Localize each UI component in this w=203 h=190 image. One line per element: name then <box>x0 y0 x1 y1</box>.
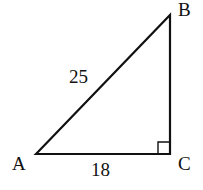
vertex-label-a: A <box>12 153 26 174</box>
triangle-diagram: B A C 25 18 <box>0 0 203 190</box>
side-label-ab: 25 <box>69 66 88 87</box>
triangle-abc <box>36 15 170 154</box>
vertex-label-c: C <box>178 153 191 174</box>
right-angle-marker <box>158 142 170 154</box>
side-label-ac: 18 <box>91 159 110 180</box>
vertex-label-b: B <box>178 0 191 20</box>
